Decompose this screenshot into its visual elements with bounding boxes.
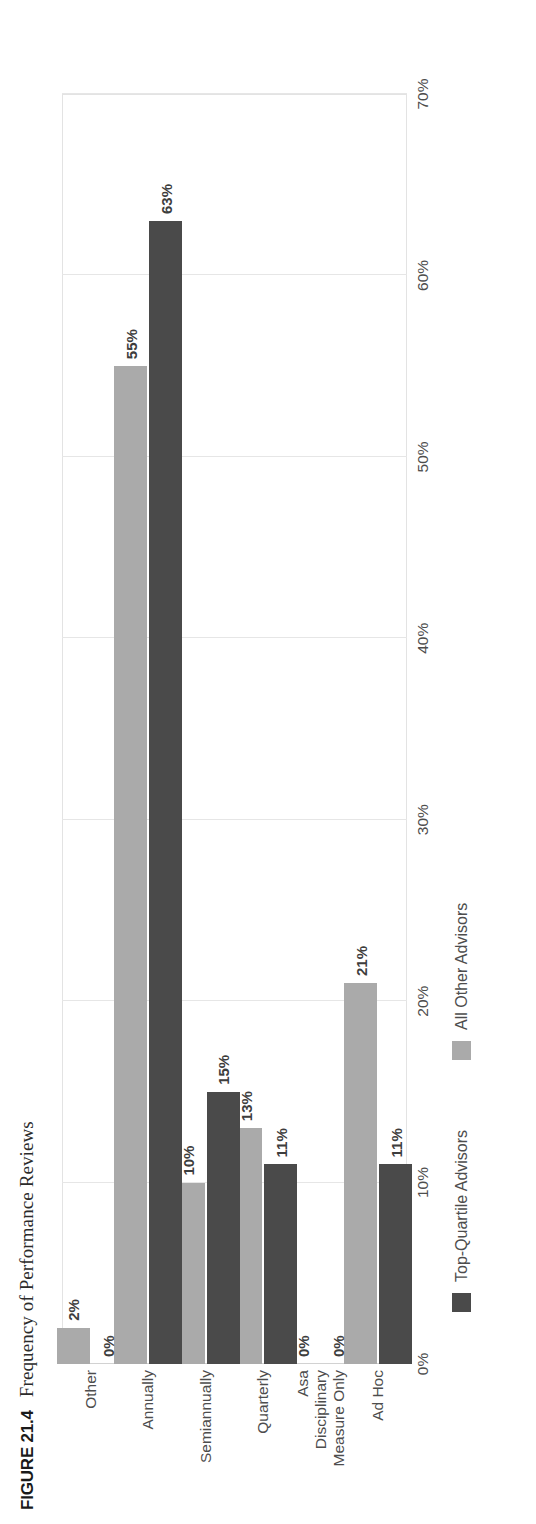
category-label: Ad Hoc	[369, 1370, 387, 1421]
bar-group: 21%11%Ad Hoc	[350, 94, 408, 1364]
bar-group: 13%11%Quarterly	[235, 94, 293, 1364]
category-label-line: Other	[82, 1370, 100, 1409]
bar-value-label: 0%	[295, 1335, 312, 1357]
bar-group: 0%0%AsaDisciplinaryMeasure Only	[292, 94, 350, 1364]
figure-number: FIGURE 21.4	[18, 1410, 37, 1510]
axis-tick-label: 30%	[414, 790, 432, 850]
legend-label: Top-Quartile Advisors	[453, 1130, 471, 1282]
category-label: Quarterly	[254, 1370, 272, 1434]
category-label-line: Annually	[139, 1370, 157, 1429]
bar-value-label: 2%	[65, 1299, 82, 1321]
figure-canvas: FIGURE 21.4Frequency of Performance Revi…	[0, 0, 536, 1524]
bar-value-label: 13%	[237, 1091, 254, 1121]
bar	[379, 1164, 412, 1364]
bar-value-label: 11%	[387, 1128, 404, 1157]
category-label: Semiannually	[197, 1370, 215, 1463]
legend-swatch	[452, 1293, 471, 1312]
bar-value-label: 55%	[122, 329, 139, 359]
bar-value-label: 11%	[272, 1128, 289, 1157]
category-label: Annually	[139, 1370, 157, 1429]
figure-title: Frequency of Performance Reviews	[16, 1121, 37, 1397]
legend-swatch	[452, 1041, 471, 1060]
category-label: Other	[82, 1370, 100, 1409]
legend-label: All Other Advisors	[453, 903, 471, 1030]
bar	[149, 221, 182, 1364]
axis-tick-label: 60%	[414, 245, 432, 305]
category-label-line: Semiannually	[197, 1370, 215, 1463]
bar	[264, 1164, 297, 1364]
category-label-line: Asa	[293, 1370, 311, 1466]
legend-item[interactable]: Top-Quartile Advisors	[452, 1130, 471, 1312]
bar-chart: 21%11%Ad Hoc0%0%AsaDisciplinaryMeasure O…	[62, 94, 407, 1364]
category-label-line: Ad Hoc	[369, 1370, 387, 1421]
axis-tick-label: 0%	[414, 1334, 432, 1394]
category-label-line: Measure Only	[330, 1370, 348, 1466]
legend-item[interactable]: All Other Advisors	[452, 903, 471, 1060]
bar-value-label: 0%	[330, 1335, 347, 1357]
axis-tick-label: 70%	[414, 64, 432, 124]
axis-tick-label: 40%	[414, 608, 432, 668]
category-label-line: Quarterly	[254, 1370, 272, 1434]
bar-value-label: 0%	[100, 1335, 117, 1357]
bar-value-label: 21%	[352, 946, 369, 976]
bar-value-label: 10%	[180, 1146, 197, 1176]
axis-tick-label: 10%	[414, 1153, 432, 1213]
axis-tick-label: 50%	[414, 427, 432, 487]
bar	[57, 1328, 90, 1364]
category-label-line: Disciplinary	[312, 1370, 330, 1466]
chart-legend: Top-Quartile AdvisorsAll Other Advisors	[452, 903, 471, 1312]
bar	[207, 1092, 240, 1364]
bar-value-label: 15%	[215, 1055, 232, 1085]
figure-caption: FIGURE 21.4Frequency of Performance Revi…	[16, 1121, 38, 1510]
bar-value-label: 63%	[157, 184, 174, 214]
axis-tick-label: 20%	[414, 971, 432, 1031]
bar-group: 55%63%Annually	[120, 94, 178, 1364]
bar-group: 2%0%Other	[62, 94, 120, 1364]
bar-group: 10%15%Semiannually	[177, 94, 235, 1364]
category-label: AsaDisciplinaryMeasure Only	[293, 1370, 348, 1466]
